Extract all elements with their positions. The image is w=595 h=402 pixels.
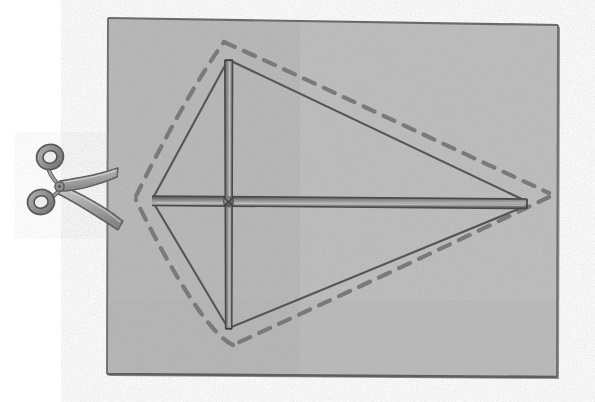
kite-frame-illustration: Kite frame laid on covering paper with c… bbox=[0, 0, 595, 402]
scissors-upper-handle-ring bbox=[33, 141, 66, 173]
illustration-canvas bbox=[0, 0, 595, 402]
vertical-spar bbox=[225, 60, 234, 329]
lashing-knot bbox=[223, 196, 234, 207]
vertical-spar-highlight bbox=[229, 63, 230, 326]
paper-edge-right bbox=[557, 25, 558, 377]
vertical-spar-left-edge bbox=[225, 60, 226, 329]
paper-edge-left bbox=[107, 18, 108, 374]
horizontal-spar bbox=[152, 196, 527, 209]
scissors-lower-handle-ring bbox=[25, 187, 57, 217]
scissors-pivot-inner bbox=[58, 185, 61, 188]
vertical-spar-right-edge bbox=[232, 60, 233, 329]
scissors-pivot-screw bbox=[55, 182, 64, 191]
